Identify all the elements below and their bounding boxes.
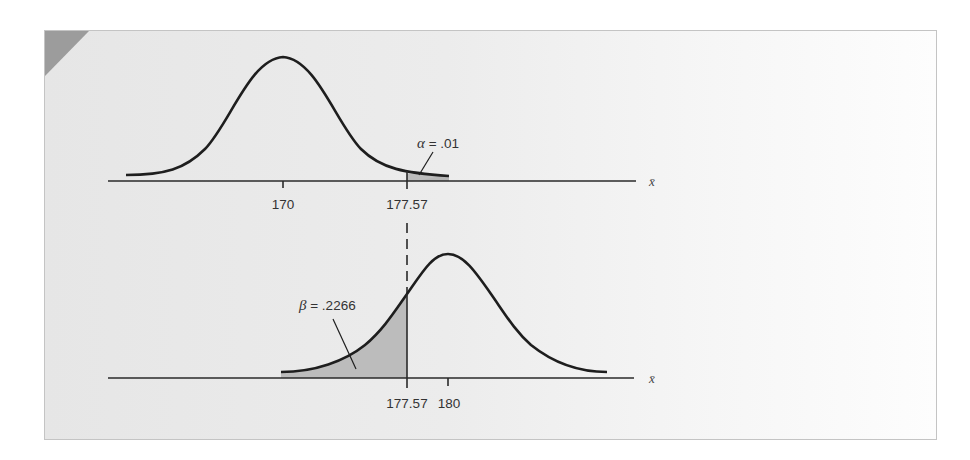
tick-label-177-57-top: 177.57: [386, 197, 427, 212]
beta-annotation: β = .2266: [298, 297, 356, 313]
h0-normal-curve: [126, 57, 449, 176]
alpha-annotation: α = .01: [417, 135, 459, 151]
hypothesis-test-figure: 170 177.57 x̄ α = .01 177.57 180: [45, 31, 937, 440]
top-distribution: 170 177.57 x̄ α = .01: [108, 57, 655, 212]
x-bar-axis-label-bottom: x̄: [648, 371, 655, 386]
beta-value: = .2266: [306, 298, 355, 313]
tick-label-170: 170: [272, 197, 295, 212]
figure-panel: 170 177.57 x̄ α = .01 177.57 180: [44, 30, 937, 440]
bottom-distribution: 177.57 180 x̄ β = .2266: [108, 254, 655, 411]
tick-label-177-57-bottom: 177.57: [386, 396, 427, 411]
h1-normal-curve: [281, 254, 607, 372]
tick-label-180: 180: [438, 396, 461, 411]
x-bar-axis-label-top: x̄: [648, 174, 655, 189]
alpha-pointer: [419, 152, 433, 175]
alpha-value: = .01: [425, 136, 459, 151]
